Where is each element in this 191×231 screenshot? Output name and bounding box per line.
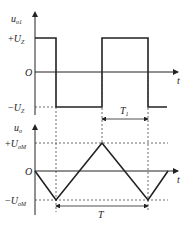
waveform-diagram: uo1 +UZ O −UZ t T1 uo	[0, 0, 191, 231]
top-plot: uo1 +UZ O −UZ t T1	[8, 13, 180, 119]
bottom-y-axis-label: uo	[14, 122, 22, 134]
bottom-plot: uo +UoM O −UoM t T	[5, 122, 180, 220]
bottom-origin-label: O	[25, 166, 32, 177]
top-y-axis-label: uo1	[11, 13, 22, 25]
t1-label: T1	[120, 105, 129, 117]
period-label: T	[98, 209, 105, 220]
top-origin-label: O	[25, 67, 32, 78]
top-pos-level-label: +UZ	[8, 33, 25, 45]
top-neg-level-label: −UZ	[8, 102, 25, 114]
bottom-pos-level-label: +UoM	[5, 138, 27, 150]
bottom-t-axis-label: t	[177, 174, 180, 185]
bottom-neg-level-label: −UoM	[5, 195, 27, 207]
top-t-axis-label: t	[177, 75, 180, 86]
